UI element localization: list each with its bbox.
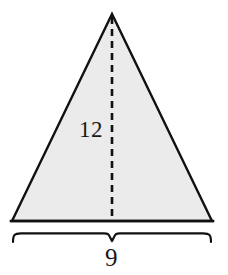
- base-brace: [13, 233, 211, 242]
- triangle-diagram-svg: [0, 0, 228, 275]
- height-label: 12: [79, 118, 103, 141]
- base-label: 9: [105, 245, 118, 270]
- geometry-figure: 12 9: [0, 0, 228, 275]
